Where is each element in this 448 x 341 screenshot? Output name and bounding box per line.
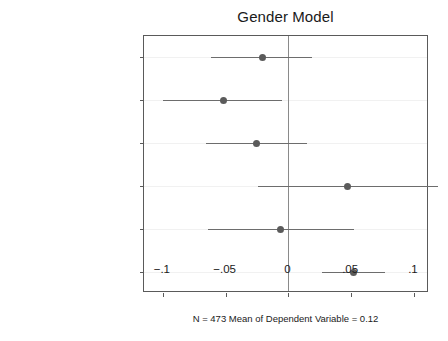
estimate-marker xyxy=(344,183,351,190)
x-axis-label: .05 xyxy=(342,263,358,275)
coefficient-plot-figure: Gender Model Female, Same PartyMale, Dif… xyxy=(0,0,448,341)
x-axis-tick xyxy=(226,293,227,297)
confidence-interval-row xyxy=(208,224,354,235)
x-axis-tick xyxy=(351,293,352,297)
x-axis-tick xyxy=(414,293,415,297)
x-axis-label: .1 xyxy=(408,263,418,275)
y-axis-tick xyxy=(140,186,144,187)
zero-reference-line xyxy=(288,36,289,291)
y-axis-tick xyxy=(140,272,144,273)
confidence-interval-row xyxy=(211,52,313,63)
x-axis-label: −.1 xyxy=(154,263,170,275)
x-axis-tick xyxy=(288,293,289,297)
chart-title: Gender Model xyxy=(143,8,428,25)
y-axis-tick xyxy=(140,57,144,58)
estimate-marker xyxy=(253,140,260,147)
y-axis-tick xyxy=(140,100,144,101)
estimate-marker xyxy=(220,97,227,104)
confidence-interval-row xyxy=(258,181,438,192)
y-axis-tick xyxy=(140,143,144,144)
x-axis-label: −.05 xyxy=(213,263,236,275)
plot-area xyxy=(143,35,428,292)
estimate-marker xyxy=(277,226,284,233)
confidence-interval-row xyxy=(163,95,282,106)
chart-caption: N = 473 Mean of Dependent Variable = 0.1… xyxy=(143,313,428,324)
x-axis-label: 0 xyxy=(284,263,290,275)
estimate-marker xyxy=(259,54,266,61)
y-axis-tick xyxy=(140,229,144,230)
confidence-interval-row xyxy=(206,138,308,149)
x-axis-tick xyxy=(163,293,164,297)
